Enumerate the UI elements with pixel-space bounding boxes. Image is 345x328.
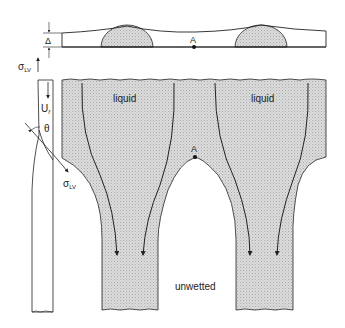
sigma-lv-label-top: σLV (18, 61, 31, 73)
drop-left (101, 25, 153, 47)
liquid-label-right: liquid (251, 93, 274, 104)
point-a-main-label: A (191, 144, 197, 154)
sigma-lv-label-bottom: σLV (63, 178, 76, 190)
wetting-diagram: A Δ σLV Uf θ σLV liqu (0, 0, 345, 328)
velocity-label: Uf (41, 103, 51, 115)
thickness-dimension: Δ (43, 22, 62, 58)
sigma-arrow-down (58, 160, 68, 172)
film-cross-section: A (62, 25, 326, 49)
liquid-region (62, 79, 326, 310)
point-a-main (193, 155, 197, 159)
delta-label: Δ (45, 36, 51, 46)
theta-label: θ (44, 123, 50, 134)
liquid-label-left: liquid (113, 93, 136, 104)
wetting-region: liquid liquid unwetted A (62, 79, 326, 310)
point-a-top (192, 45, 196, 49)
point-a-top-label: A (190, 35, 196, 45)
unwetted-label: unwetted (175, 281, 216, 292)
